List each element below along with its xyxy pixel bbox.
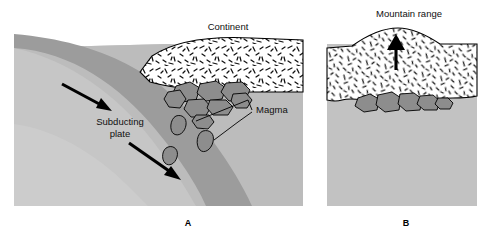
label-subducting-plate-line2: plate — [110, 128, 131, 139]
panel-a: Continent Subducting plate Magma A — [14, 21, 303, 228]
diagram-canvas: Continent Subducting plate Magma A Mount… — [0, 0, 491, 238]
label-magma: Magma — [256, 104, 288, 115]
panel-label-b: B — [403, 218, 410, 228]
panel-label-a: A — [185, 218, 192, 228]
label-mountain-range: Mountain range — [376, 8, 442, 19]
label-continent: Continent — [208, 21, 249, 32]
label-subducting-plate-line1: Subducting — [96, 116, 144, 127]
subduction-diagram-figure: Continent Subducting plate Magma A Mount… — [0, 0, 491, 238]
